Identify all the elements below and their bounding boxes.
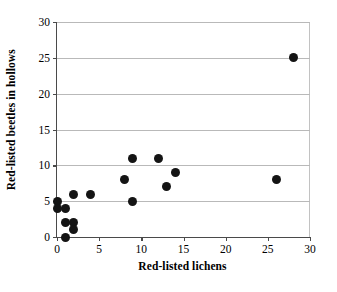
x-tick-label-10: 10 xyxy=(136,243,148,255)
x-tick-label-20: 20 xyxy=(220,243,232,255)
x-tick-label-30: 30 xyxy=(304,243,316,255)
y-tick-mark-15 xyxy=(53,130,57,131)
x-tick-label-5: 5 xyxy=(96,243,102,255)
data-point xyxy=(289,53,298,62)
data-point xyxy=(69,225,78,234)
x-tick-mark-10 xyxy=(141,237,142,241)
y-tick-label-0: 0 xyxy=(44,231,50,243)
data-point xyxy=(61,204,70,213)
y-axis-title: Red-listed beetles in hollows xyxy=(0,0,24,240)
y-tick-label-15: 15 xyxy=(39,124,51,136)
x-tick-mark-20 xyxy=(226,237,227,241)
y-tick-mark-20 xyxy=(53,94,57,95)
gridline-y-10 xyxy=(57,165,310,166)
y-tick-label-5: 5 xyxy=(44,195,50,207)
data-point xyxy=(61,233,70,242)
gridline-y-20 xyxy=(57,94,310,95)
data-point xyxy=(154,154,163,163)
data-point xyxy=(69,190,78,199)
y-axis-title-text: Red-listed beetles in hollows xyxy=(6,49,18,190)
y-tick-mark-30 xyxy=(53,22,57,23)
x-tick-mark-15 xyxy=(184,237,185,241)
data-point xyxy=(171,168,180,177)
y-tick-label-25: 25 xyxy=(39,52,51,64)
data-point xyxy=(120,175,129,184)
y-tick-mark-25 xyxy=(53,58,57,59)
data-point xyxy=(272,175,281,184)
gridline-y-15 xyxy=(57,130,310,131)
scatter-plot-figure: Red-listed beetles in hollows 0510152025… xyxy=(0,0,337,292)
gridline-y-30 xyxy=(57,22,310,23)
x-tick-mark-30 xyxy=(310,237,311,241)
x-tick-mark-0 xyxy=(57,237,58,241)
x-tick-mark-5 xyxy=(99,237,100,241)
y-tick-label-30: 30 xyxy=(39,16,51,28)
y-tick-label-20: 20 xyxy=(39,88,51,100)
data-point xyxy=(86,190,95,199)
data-point xyxy=(128,197,137,206)
gridline-y-25 xyxy=(57,58,310,59)
plot-area: 051015202530 051015202530 xyxy=(56,22,310,238)
x-axis-title: Red-listed lichens xyxy=(56,260,309,272)
x-tick-label-15: 15 xyxy=(178,243,190,255)
x-tick-label-25: 25 xyxy=(262,243,274,255)
x-tick-label-0: 0 xyxy=(54,243,60,255)
y-tick-mark-10 xyxy=(53,165,57,166)
data-point xyxy=(162,182,171,191)
gridline-y-5 xyxy=(57,201,310,202)
y-tick-label-10: 10 xyxy=(39,159,51,171)
data-point xyxy=(128,154,137,163)
x-tick-mark-25 xyxy=(268,237,269,241)
